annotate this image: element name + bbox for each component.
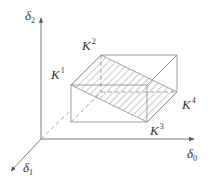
hatched-plane — [71, 55, 177, 122]
delta2-axis-label: δ2 — [25, 9, 35, 25]
vertex-label-k3: K3 — [150, 123, 164, 137]
delta0-axis-label: δ0 — [187, 147, 197, 163]
coordinate-diagram — [0, 0, 212, 183]
vertex-label-k4: K4 — [182, 97, 196, 111]
origin-diagonal-dashed — [41, 110, 71, 139]
vertex-label-k1: K1 — [51, 67, 65, 81]
delta1-axis-label: δ1 — [23, 161, 33, 177]
vertex-label-k2: K2 — [82, 38, 96, 52]
